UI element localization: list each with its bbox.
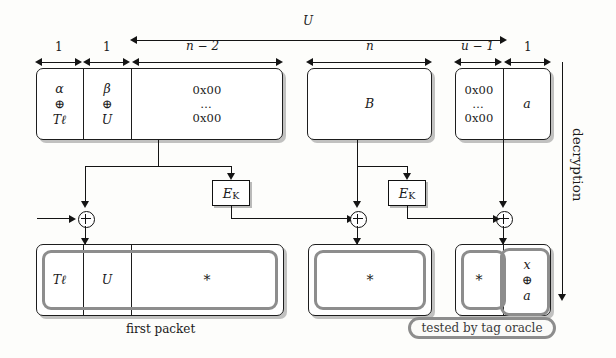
dim-line-beta [89, 62, 125, 63]
cell-beta-line-3: U [102, 112, 113, 127]
out-cell-star-3: * [455, 244, 503, 316]
wire-b3-to-xor3 [503, 140, 504, 204]
cell-alpha: α ⊕ Tℓ [36, 68, 83, 140]
wire-b1-to-xor1-arrowhead [81, 201, 89, 208]
xor-gate-1 [78, 211, 95, 228]
tag-oracle-caption: tested by tag oracle [408, 317, 556, 339]
cell-zero-tail-line-1: 0x00 [464, 83, 493, 97]
cell-zero-pad-line-1: 0x00 [192, 83, 221, 97]
dim-arrowhead-alpha-right [75, 58, 82, 66]
dim-arrowhead-a-right [544, 58, 551, 66]
dim-arrowhead-zerotail-right [495, 58, 502, 66]
dim-line-a [510, 62, 546, 63]
out-cell-star-2-line-1: * [367, 273, 374, 287]
ek-block-2-label: E [399, 186, 409, 201]
cell-zero-tail-line-3: 0x00 [464, 111, 493, 125]
wire-ek1-out-bus [231, 218, 352, 219]
dim-line-zero-pad [138, 62, 278, 63]
wire-b3-to-xor3-arrowhead [499, 201, 507, 208]
wire-b1-to-ek1-arrowhead [227, 173, 235, 180]
wire-ek2-out-bus [407, 218, 498, 219]
cell-zero-pad-line-2: … [200, 97, 214, 111]
out-cell-u-line-1: U [102, 272, 113, 287]
ek-block-1-label: E [223, 186, 233, 201]
dimension-label-1-beta: 1 [103, 40, 111, 54]
dim-arrowhead-alpha-left [35, 58, 42, 66]
wire-b2-to-xor2 [357, 166, 358, 204]
dimension-label-1-alpha: 1 [55, 40, 63, 54]
cell-alpha-line-3: Tℓ [53, 112, 67, 127]
xor-gate-2 [350, 211, 367, 228]
ek-block-2-sub: K [408, 190, 415, 201]
cell-zero-pad: 0x00 … 0x00 [131, 68, 283, 140]
cell-alpha-line-1: α [55, 81, 63, 96]
cell-beta-line-1: β [103, 81, 110, 96]
cell-zero-pad-line-3: 0x00 [192, 111, 221, 125]
cell-zero-tail-line-2: … [472, 97, 486, 111]
out-cell-star-2: * [308, 244, 432, 316]
out-cell-u: U [84, 244, 130, 316]
dim-arrowhead-zeropad-left [132, 58, 139, 66]
dim-arrowhead-zerotail-left [454, 58, 461, 66]
wire-b1-to-xor1 [85, 166, 86, 204]
wire-b1-bus [85, 166, 232, 167]
out-cell-star-1: * [131, 244, 283, 316]
dim-line-alpha [41, 62, 77, 63]
dim-arrowhead-a-left [504, 58, 511, 66]
cell-zero-tail: 0x00 … 0x00 [455, 68, 503, 140]
dimension-label-U: U [303, 14, 313, 28]
cell-a-line-1: a [523, 96, 530, 111]
cell-b: B [307, 68, 432, 140]
out-cell-xa-line-3: a [523, 288, 530, 303]
wire-external-in-arrowhead [69, 215, 76, 223]
dim-arrowhead-b-left [306, 58, 313, 66]
wire-b2-to-xor2-arrowhead [353, 201, 361, 208]
ek-block-2: EK [388, 180, 426, 206]
dimension-label-u-minus-1: u − 1 [461, 39, 494, 53]
ek-block-1-sub: K [232, 190, 239, 201]
dim-line-zero-tail [460, 62, 497, 63]
out-cell-star-1-line-1: * [204, 273, 211, 287]
dimension-label-n-minus-2: n − 2 [186, 39, 219, 53]
cell-beta-line-2: ⊕ [102, 96, 112, 111]
decryption-axis-line [562, 62, 563, 297]
cell-alpha-line-2: ⊕ [54, 96, 64, 111]
wire-external-in [37, 218, 72, 219]
cell-b-line-1: B [365, 96, 374, 111]
wire-b2-to-ek2-arrowhead [403, 173, 411, 180]
dim-arrowhead-beta-left [83, 58, 90, 66]
ek-block-1: EK [212, 180, 250, 206]
out-cell-xa-line-1: x [523, 257, 530, 272]
out-cell-star-3-line-1: * [476, 273, 483, 287]
out-cell-tag: Tℓ [36, 244, 83, 316]
wire-b2-bus [357, 166, 407, 167]
decryption-label: decryption [570, 128, 586, 201]
u-span-arrowhead-left [130, 36, 137, 44]
figure-canvas: U 1 1 n − 2 n u − 1 1 α ⊕ Tℓ β ⊕ U [0, 0, 616, 358]
u-span-arrowhead-right [500, 36, 507, 44]
dimension-label-n: n [366, 39, 374, 53]
cell-beta: β ⊕ U [84, 68, 130, 140]
wire-b2-stem [357, 140, 358, 167]
cell-a: a [503, 68, 551, 140]
wire-ek2-out-arrowhead [493, 215, 500, 223]
dim-arrowhead-beta-right [123, 58, 130, 66]
dimension-label-1-a: 1 [524, 40, 532, 54]
out-cell-xa: x ⊕ a [503, 244, 551, 316]
dim-arrowhead-zeropad-right [276, 58, 283, 66]
wire-b1-stem [158, 140, 159, 167]
first-packet-caption: first packet [126, 322, 195, 336]
decryption-axis-arrowhead [558, 294, 566, 301]
dim-arrowhead-b-right [425, 58, 432, 66]
dim-line-b [312, 62, 427, 63]
out-cell-tag-line-1: Tℓ [53, 272, 67, 287]
out-cell-xa-line-2: ⊕ [522, 272, 532, 287]
